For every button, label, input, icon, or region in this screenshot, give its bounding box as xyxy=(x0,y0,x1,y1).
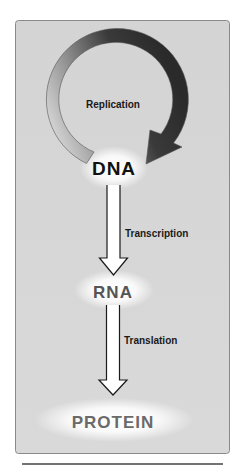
replication-label: Replication xyxy=(86,99,140,110)
dna-label: DNA xyxy=(92,158,136,179)
transcription-label: Transcription xyxy=(125,228,188,239)
rna-label: RNA xyxy=(93,283,133,302)
central-dogma-diagram: Replication Transcription Translation DN… xyxy=(0,0,245,472)
translation-label: Translation xyxy=(124,335,177,346)
protein-label: PROTEIN xyxy=(72,413,155,432)
